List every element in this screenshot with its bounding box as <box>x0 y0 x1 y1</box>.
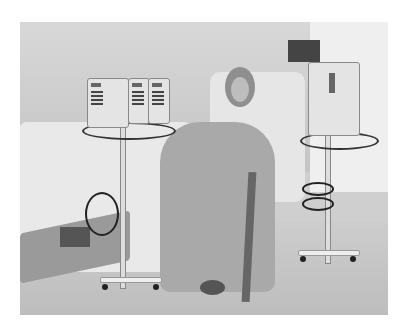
wheel <box>153 284 159 290</box>
iv-base-left <box>100 277 162 283</box>
patient-gown <box>160 122 275 292</box>
patient-feet <box>200 280 225 295</box>
bed-control-panel <box>60 227 90 247</box>
iv-pole-left <box>120 122 126 289</box>
iv-pump-3 <box>148 78 170 124</box>
wheel <box>102 284 108 290</box>
hospital-room-photo <box>20 22 388 315</box>
iv-pump-right <box>308 62 360 136</box>
wall-monitor <box>288 40 320 62</box>
iv-pump-1 <box>87 78 129 128</box>
cable-coil-left <box>85 192 119 236</box>
iv-pump-2 <box>128 78 150 124</box>
iv-base-right <box>298 250 360 256</box>
wheel <box>300 256 306 262</box>
patient-face <box>231 77 249 102</box>
cable-coil-right-1 <box>302 182 334 196</box>
wheel <box>350 256 356 262</box>
cable-coil-right-2 <box>302 197 334 211</box>
